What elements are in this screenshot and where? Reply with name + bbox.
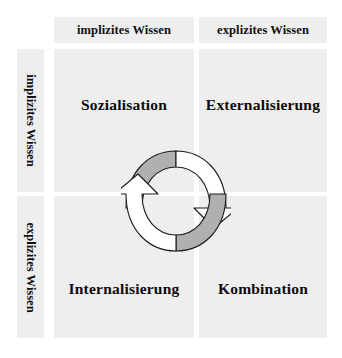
row-header-implicit-label: implizites Wissen [23,74,38,166]
quadrant-sozialisation: Sozialisation [54,49,194,192]
quadrant-kombination: Kombination [199,196,327,338]
quadrant-externalisierung: Externalisierung [199,49,327,192]
column-header-implicit-label: implizites Wissen [77,23,171,38]
row-header-implicit: implizites Wissen [17,49,44,192]
row-header-explicit-label: explizites Wissen [23,222,38,312]
quadrant-externalisierung-label: Externalisierung [206,96,320,114]
quadrant-kombination-label: Kombination [218,280,308,298]
column-header-explicit: explizites Wissen [199,17,327,43]
quadrant-sozialisation-label: Sozialisation [81,96,167,114]
column-header-explicit-label: explizites Wissen [217,23,309,38]
column-header-implicit: implizites Wissen [54,17,194,43]
seci-matrix: implizites Wissen explizites Wissen impl… [0,0,342,358]
quadrant-internalisierung-label: Internalisierung [69,280,180,298]
row-header-explicit: explizites Wissen [17,196,44,338]
quadrant-internalisierung: Internalisierung [54,196,194,338]
